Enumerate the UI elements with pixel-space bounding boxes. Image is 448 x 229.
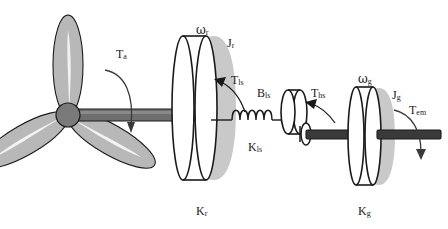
label-generator-stiffness: Kg bbox=[358, 205, 371, 218]
label-low-speed-stiffness: Kls bbox=[248, 141, 262, 154]
label-generator-speed: ωg bbox=[358, 73, 372, 86]
three-bladed-rotor bbox=[0, 15, 162, 178]
label-rotor-speed: ωr bbox=[196, 24, 208, 37]
generator-disk-near-face bbox=[348, 87, 364, 185]
label-rotor-stiffness: Kr bbox=[196, 205, 207, 218]
rotor-disk-far-face bbox=[195, 36, 217, 180]
spring-coils bbox=[232, 110, 272, 120]
rotor-inertia-disk bbox=[172, 36, 217, 180]
label-aerodynamic-torque: Ta bbox=[116, 48, 127, 61]
wind-turbine-drivetrain-figure: Ta ωr Jr Tls Bls Kls Kr Ths ωg Jg Tem Kg bbox=[0, 0, 448, 229]
label-electromagnetic-torque: Tem bbox=[409, 104, 426, 117]
gearbox-disk-near-face bbox=[281, 90, 295, 134]
electromagnetic-torque-arrowhead bbox=[416, 149, 426, 160]
label-low-speed-shaft-torque: Tls bbox=[231, 74, 244, 87]
high-speed-torque-arc bbox=[312, 104, 335, 123]
label-low-speed-damping: Bls bbox=[257, 87, 270, 100]
drivetrain-schematic bbox=[0, 0, 448, 229]
rotor-hub bbox=[56, 103, 80, 127]
aerodynamic-torque-arrowhead bbox=[127, 122, 135, 133]
rotor-disk-near-face bbox=[172, 36, 194, 180]
high-speed-torque-arrow bbox=[305, 99, 335, 123]
generator-output-shaft bbox=[377, 130, 441, 139]
label-generator-inertia: Jg bbox=[392, 89, 401, 102]
label-rotor-inertia: Jr bbox=[227, 37, 234, 50]
generator-inertia-disk bbox=[348, 87, 381, 185]
label-high-speed-shaft-torque: Ths bbox=[311, 87, 325, 100]
